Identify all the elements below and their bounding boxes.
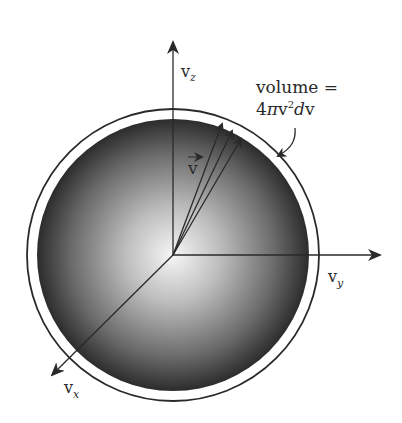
volume-annotation-line2: 4πv2dv	[256, 99, 315, 119]
vy-label: vy	[327, 267, 344, 290]
vx-label: vx	[63, 378, 80, 401]
vz-label: vz	[180, 62, 196, 84]
vector-label: v	[187, 158, 198, 178]
volume-annotation-line1: volume =	[255, 77, 338, 97]
velocity-sphere-diagram: v vz vy vx volume = 4πv2dv	[0, 0, 402, 423]
annotation-pointer-arrow	[278, 128, 295, 156]
